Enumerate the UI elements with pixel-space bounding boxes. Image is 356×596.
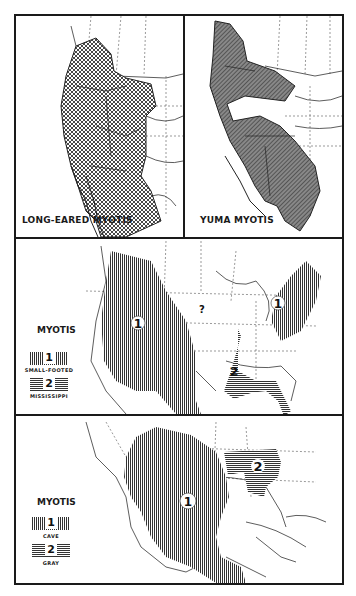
- legend-swatch-gray: 2: [32, 544, 70, 557]
- map-yuma-myotis: [185, 16, 342, 237]
- divider-horizontal-1: [14, 237, 344, 239]
- panel-yuma-myotis: YUMA MYOTIS: [185, 16, 342, 237]
- legend-swatch-mississippi: 2: [30, 378, 68, 391]
- legend-title-myotis-1: MYOTIS: [37, 325, 76, 335]
- range-long-eared: [61, 38, 161, 237]
- caption-yuma-myotis: YUMA MYOTIS: [200, 215, 274, 225]
- map-label-1: 1: [184, 495, 192, 509]
- map-label-question: ?: [199, 304, 205, 315]
- legend-label-gray: GRAY: [26, 560, 76, 566]
- caption-long-eared-myotis: LONG-EARED MYOTIS: [22, 215, 133, 225]
- panel-long-eared-myotis: LONG-EARED MYOTIS: [16, 16, 183, 237]
- divider-horizontal-2: [14, 414, 344, 416]
- legend-swatch-small-footed: 1: [30, 352, 68, 365]
- legend-title-myotis-2: MYOTIS: [37, 497, 76, 507]
- legend-swatch-cave: 1: [32, 517, 70, 530]
- map-label-1-west: 1: [134, 317, 142, 331]
- map-label-2: 2: [253, 459, 262, 474]
- legend-label-small-footed: SMALL-FOOTED: [24, 367, 74, 373]
- panel-small-footed-mississippi: 1 1 2 ? MYOTIS 1 SMALL-FOOTED 2 MISSISSI…: [16, 241, 342, 414]
- legend-label-mississippi: MISSISSIPPI: [24, 393, 74, 399]
- range-yuma: [210, 21, 320, 231]
- panel-cave-gray: 1 2 MYOTIS 1 CAVE 2 GRAY: [16, 417, 342, 583]
- legend-label-cave: CAVE: [26, 533, 76, 539]
- map-label-2: 2: [229, 364, 238, 379]
- map-label-1-east: 1: [274, 297, 282, 311]
- range-small-footed-west: [101, 251, 201, 414]
- map-long-eared-myotis: [16, 16, 183, 237]
